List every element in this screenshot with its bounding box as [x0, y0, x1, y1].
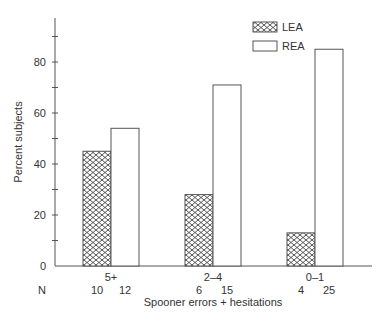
- y-tick-label: 80: [34, 56, 46, 68]
- x-axis-title: Spooner errors + hesitations: [144, 296, 283, 308]
- legend: LEAREA: [253, 21, 305, 52]
- bar-rea-2: [315, 49, 343, 266]
- y-tick-label: 40: [34, 158, 46, 170]
- n-value: 6: [196, 284, 202, 296]
- legend-label-lea: LEA: [282, 21, 303, 33]
- n-value: 10: [91, 284, 103, 296]
- bar-rea-0: [111, 128, 139, 266]
- category-label: 5+: [105, 271, 118, 283]
- n-value: 25: [323, 284, 335, 296]
- legend-swatch-rea: [253, 41, 277, 51]
- n-value: 15: [221, 284, 233, 296]
- n-row-label: N: [38, 284, 46, 296]
- legend-swatch-lea: [253, 22, 277, 32]
- bar-lea-0: [83, 151, 111, 266]
- y-tick-label: 20: [34, 209, 46, 221]
- legend-label-rea: REA: [282, 40, 305, 52]
- bar-rea-1: [213, 85, 241, 266]
- category-label: 2–4: [204, 271, 222, 283]
- bars: [83, 49, 343, 266]
- x-axis-labels: 10125+6152–44250–1N: [38, 271, 335, 296]
- bar-lea-2: [287, 233, 315, 266]
- category-label: 0–1: [306, 271, 324, 283]
- y-tick-label: 0: [40, 260, 46, 272]
- n-value: 4: [298, 284, 304, 296]
- y-axis-title: Percent subjects: [12, 101, 24, 183]
- y-tick-label: 60: [34, 107, 46, 119]
- n-value: 12: [119, 284, 131, 296]
- bar-chart: 020406080 10125+6152–44250–1N LEAREA Per…: [0, 0, 389, 326]
- bar-lea-1: [185, 195, 213, 266]
